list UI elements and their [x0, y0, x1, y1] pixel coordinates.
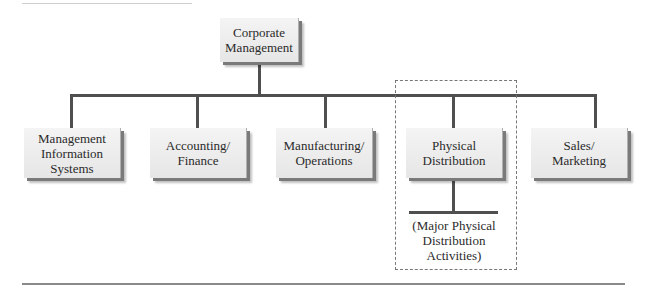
- node-corporate-management: Corporate Management: [220, 18, 299, 62]
- stem-sales: [594, 94, 597, 128]
- horizontal-bus: [70, 94, 597, 97]
- node-accounting-finance: Accounting/ Finance: [150, 128, 247, 178]
- node-manufacturing-operations: Manufacturing/ Operations: [276, 128, 373, 178]
- node-physical-distribution: Physical Distribution: [406, 128, 503, 178]
- activities-note: (Major Physical Distribution Activities): [404, 218, 504, 263]
- bottom-rule: [22, 283, 625, 285]
- stem-mis: [70, 94, 73, 128]
- top-rule: [22, 3, 192, 4]
- node-sales-marketing: Sales/ Marketing: [531, 128, 628, 178]
- root-stem: [258, 62, 261, 96]
- stem-accounting: [196, 94, 199, 128]
- stem-manufacturing: [324, 94, 327, 128]
- node-management-information-systems: Management Information Systems: [24, 128, 121, 178]
